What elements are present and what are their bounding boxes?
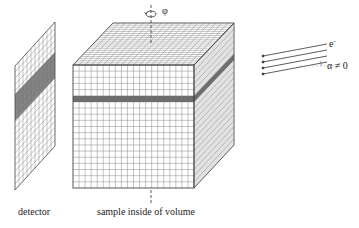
cube-top-face [75,23,232,65]
front-band [73,96,194,102]
rotation-label: φ [162,5,168,16]
cube-right-face [194,25,234,186]
diagram-canvas [0,0,359,228]
electron-beam [262,44,327,75]
cube-front-face [73,65,194,188]
detector-label: detector [18,206,50,217]
angle-label: α ≠ 0 [327,60,348,71]
beam-label: e- [329,38,335,49]
rotation-arrow-icon [145,11,157,17]
sample-label: sample inside of volume [97,206,195,217]
beam-charge: - [333,38,335,44]
